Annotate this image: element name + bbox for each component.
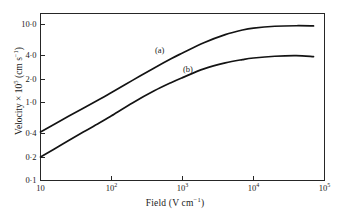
velocity-field-chart: 10·04·02·01·00·40·20·1 10102103104105 (a… bbox=[0, 0, 350, 218]
curve-annotation: (a) bbox=[155, 45, 164, 55]
plot-frame bbox=[41, 14, 325, 181]
x-tick-label: 10 bbox=[36, 183, 45, 193]
x-tick-label: 104 bbox=[248, 183, 260, 193]
curve-a bbox=[41, 26, 314, 132]
x-axis-title: Field (V cm−1) bbox=[0, 198, 350, 208]
data-curves bbox=[41, 26, 314, 157]
x-axis-ticks bbox=[41, 176, 325, 181]
plot-canvas bbox=[0, 0, 350, 218]
x-tick-label: 103 bbox=[177, 183, 189, 193]
curve-annotation: (b) bbox=[183, 64, 193, 74]
axes bbox=[41, 14, 325, 181]
x-tick-label: 102 bbox=[106, 183, 118, 193]
curve-b bbox=[41, 56, 314, 157]
y-axis-title: Velocity × 105 (cm s−1) bbox=[14, 16, 24, 166]
x-tick-label: 105 bbox=[319, 183, 331, 193]
y-tick-label: 0·1 bbox=[0, 175, 37, 185]
